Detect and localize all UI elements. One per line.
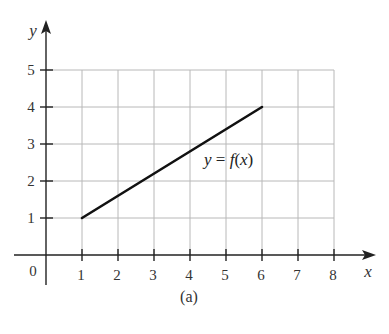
chart-canvas: 1 2 3 4 5 6 7 8 1 2 3 4 5 0 x y y = f(x)… — [0, 0, 389, 334]
x-tick-6: 6 — [257, 267, 265, 283]
y-tick-1: 1 — [27, 210, 35, 226]
y-tick-labels: 1 2 3 4 5 — [27, 62, 35, 226]
y-tick-4: 4 — [27, 99, 35, 115]
y-axis-label: y — [27, 21, 37, 40]
x-tick-labels: 1 2 3 4 5 6 7 8 — [77, 267, 337, 283]
grid — [46, 70, 334, 255]
origin-label: 0 — [29, 263, 37, 279]
x-tick-8: 8 — [329, 267, 337, 283]
function-label: y = f(x) — [202, 150, 253, 169]
x-tick-2: 2 — [113, 267, 121, 283]
x-tick-5: 5 — [221, 267, 229, 283]
x-tick-3: 3 — [149, 267, 157, 283]
x-tick-4: 4 — [185, 267, 193, 283]
x-axis-label: x — [363, 262, 372, 281]
figure-caption: (a) — [180, 288, 198, 306]
function-label-eq: = — [212, 150, 230, 169]
x-tick-7: 7 — [293, 267, 301, 283]
y-tick-5: 5 — [27, 62, 35, 78]
y-tick-2: 2 — [27, 173, 35, 189]
function-label-paren-close: ) — [248, 150, 254, 169]
function-label-y: y — [202, 150, 212, 169]
y-tick-3: 3 — [27, 136, 35, 152]
axes — [14, 26, 370, 285]
x-tick-1: 1 — [77, 267, 85, 283]
